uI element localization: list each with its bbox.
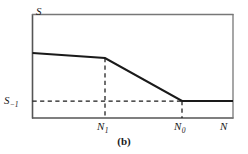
x-tick-n0-subscript: 0 <box>182 126 186 135</box>
x-axis-tick-label-n1: N1 <box>97 121 108 132</box>
x-axis-tick-label-n0: N0 <box>174 121 185 132</box>
y-axis-tick-label-s-minus-1: S−1 <box>4 95 18 106</box>
curve-s-of-n <box>33 53 234 101</box>
y-tick-subscript: −1 <box>10 100 19 109</box>
figure-plot-svg <box>0 0 248 154</box>
figure-caption: (b) <box>0 136 248 147</box>
y-tick-base: S <box>4 94 10 106</box>
plot-frame <box>32 14 234 119</box>
x-axis-title: N <box>220 121 227 132</box>
y-axis-title: S <box>36 6 42 17</box>
x-tick-n1-subscript: 1 <box>105 126 109 135</box>
x-tick-n0-base: N <box>174 120 181 132</box>
x-tick-n1-base: N <box>97 120 104 132</box>
figure-panel-b: S S−1 N1 N0 N (b) <box>0 0 248 154</box>
